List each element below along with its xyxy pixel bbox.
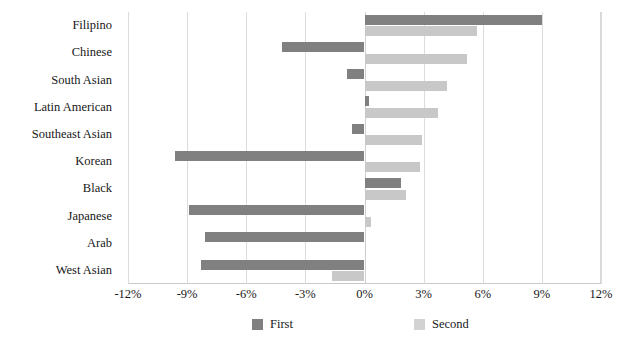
gridline (483, 12, 484, 284)
x-axis-tick: -12% (114, 288, 141, 301)
y-axis-label: Latin American (0, 101, 112, 114)
gridline (542, 12, 543, 284)
x-axis-tick: -9% (177, 288, 198, 301)
y-axis-label: West Asian (0, 264, 112, 277)
gridline (187, 12, 188, 284)
scan-artifact (603, 122, 619, 132)
x-axis-tick-labels: -12%-9%-6%-3%0%3%6%9%12% (128, 288, 601, 308)
legend-item-second[interactable]: Second (414, 318, 469, 331)
bar-first (282, 42, 365, 52)
gridline (305, 12, 306, 284)
legend-swatch-icon (252, 319, 263, 330)
x-axis-tick: 6% (474, 288, 491, 301)
y-axis-label: Japanese (0, 210, 112, 223)
legend-item-first[interactable]: First (252, 318, 293, 331)
legend-label: First (270, 318, 293, 331)
bar-first (347, 69, 365, 79)
bar-first (175, 151, 364, 161)
bar-first (189, 205, 364, 215)
bar-first (365, 96, 370, 106)
x-axis-tick: -3% (295, 288, 316, 301)
x-axis-tick: 12% (590, 288, 613, 301)
x-axis-tick: 3% (415, 288, 432, 301)
y-axis-label: Southeast Asian (0, 128, 112, 141)
gridline (601, 12, 602, 284)
y-axis-category-labels: FilipinoChineseSouth AsianLatin American… (0, 12, 120, 284)
bar-second (365, 54, 467, 64)
bar-first (352, 124, 365, 134)
y-axis-label: South Asian (0, 74, 112, 87)
bar-second (365, 108, 439, 118)
y-axis-label: Korean (0, 155, 112, 168)
x-axis-tick: 0% (356, 288, 373, 301)
y-axis-label: Black (0, 182, 112, 195)
x-axis-tick: -6% (236, 288, 257, 301)
bar-second (365, 135, 422, 145)
grouped-bar-chart: FilipinoChineseSouth AsianLatin American… (0, 0, 630, 350)
bar-second (365, 26, 477, 36)
chart-legend: FirstSecond (0, 318, 630, 340)
bar-second (365, 244, 367, 254)
gridline (128, 12, 129, 284)
bar-first (365, 178, 401, 188)
gridline (246, 12, 247, 284)
bar-second (332, 271, 365, 281)
bar-second (365, 162, 420, 172)
y-axis-label: Filipino (0, 19, 112, 32)
x-axis-tick: 9% (534, 288, 551, 301)
y-axis-label: Arab (0, 237, 112, 250)
bar-first (205, 232, 365, 242)
bar-second (365, 81, 448, 91)
bar-second (365, 190, 406, 200)
bar-first (365, 15, 542, 25)
legend-label: Second (432, 318, 469, 331)
bar-first (201, 260, 365, 270)
legend-swatch-icon (414, 319, 425, 330)
plot-area (128, 12, 601, 284)
bar-second (365, 217, 372, 227)
y-axis-label: Chinese (0, 46, 112, 59)
